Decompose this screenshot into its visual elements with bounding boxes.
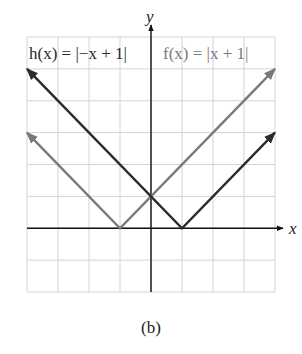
function-graph: xyh(x) = |−x + 1|f(x) = |x + 1| [0, 0, 302, 354]
x-axis-label: x [288, 219, 297, 238]
label-h: h(x) = |−x + 1| [29, 44, 127, 63]
figure-caption: (b) [0, 318, 302, 338]
label-f: f(x) = |x + 1| [163, 44, 248, 63]
y-axis-label: y [144, 7, 154, 26]
